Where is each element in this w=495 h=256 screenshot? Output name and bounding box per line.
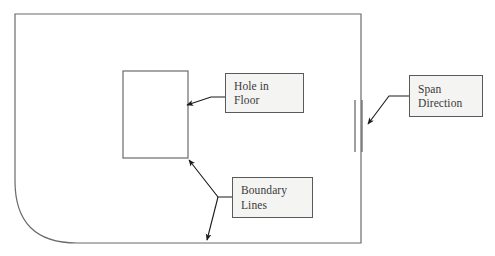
callout-boundary-lines-line-2: Lines — [241, 198, 267, 213]
callout-boundary-lines: Boundary Lines — [232, 177, 313, 218]
callout-hole-in-floor-line-1: Hole in — [234, 79, 269, 94]
callout-span-direction-line-1: Span — [418, 82, 441, 97]
hole-in-floor-opening — [123, 71, 188, 158]
leader-hole-in-floor — [187, 97, 225, 105]
callout-hole-in-floor-line-2: Floor — [234, 93, 259, 108]
leader-boundary-lines-lower — [207, 197, 218, 240]
callout-span-direction-line-2: Direction — [418, 96, 462, 111]
callout-boundary-lines-line-1: Boundary — [241, 183, 287, 198]
callout-span-direction: Span Direction — [409, 75, 483, 117]
leader-span-direction — [368, 96, 409, 124]
leader-boundary-lines-upper — [189, 160, 232, 197]
diagram-canvas: Hole in Floor Boundary Lines Span Direct… — [0, 0, 495, 256]
callout-hole-in-floor: Hole in Floor — [225, 73, 304, 113]
